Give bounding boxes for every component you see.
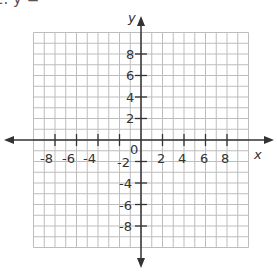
x-tick-label: -6 — [62, 151, 75, 166]
y-tick-label: 2 — [126, 111, 134, 126]
x-tick-label: 4 — [178, 151, 186, 166]
x-tick-label: 6 — [200, 151, 208, 166]
y-tick-label: 4 — [126, 90, 134, 105]
x-tick-label: 2 — [157, 151, 165, 166]
x-axis-right-arrow-icon — [264, 136, 274, 144]
x-axis-label: x — [253, 147, 262, 162]
x-axis-left-arrow-icon — [4, 136, 14, 144]
y-tick-label: -8 — [119, 219, 132, 234]
y-tick-label: 6 — [126, 68, 134, 83]
y-tick-label: 8 — [126, 47, 134, 62]
origin-label: 0 — [130, 142, 138, 157]
x-tick-label: -4 — [83, 151, 96, 166]
y-axis-label: y — [127, 10, 136, 25]
coordinate-grid: y x 0 -8 -6 -4 2 4 6 8 8 6 4 2 -2 -4 -6 … — [0, 0, 277, 273]
y-tick-label: -6 — [119, 198, 132, 213]
x-tick-label: 8 — [221, 151, 229, 166]
x-tick-label: -8 — [40, 151, 53, 166]
y-axis-up-arrow-icon — [137, 16, 145, 26]
y-tick-label: -2 — [117, 155, 130, 170]
y-tick-label: -4 — [119, 176, 132, 191]
y-axis-down-arrow-icon — [137, 258, 145, 268]
